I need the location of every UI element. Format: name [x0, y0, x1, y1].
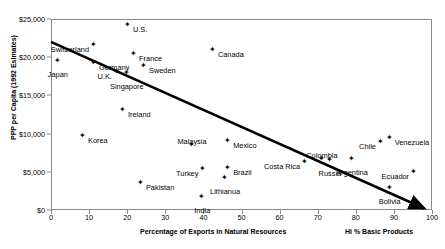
x-tick-label: 70 [314, 213, 322, 222]
data-point [379, 144, 383, 148]
data-point-label: Venezuela [395, 138, 430, 147]
data-point [223, 180, 227, 184]
data-point [303, 164, 307, 168]
y-tick-label: $10,000 [19, 129, 45, 138]
y-tick-mark [47, 171, 51, 172]
data-point [142, 68, 146, 72]
data-point [125, 75, 129, 79]
x-tick-label: 20 [123, 213, 131, 222]
data-point [201, 171, 205, 175]
data-point-label: U.K. [98, 72, 112, 81]
data-point [328, 162, 332, 166]
x-tick-mark [280, 210, 281, 214]
x-tick-mark [318, 210, 319, 214]
data-point [81, 138, 85, 142]
y-tick-label: $20,000 [19, 53, 45, 62]
x-tick-label: 40 [199, 213, 207, 222]
data-point-label: U.S. [133, 24, 147, 33]
data-point [211, 52, 215, 56]
data-point [139, 185, 143, 189]
x-tick-mark [127, 210, 128, 214]
data-point-label: Costa Rica [264, 161, 300, 170]
x-tick-label: 90 [390, 213, 398, 222]
data-point-label: Bolivia [379, 196, 401, 205]
scatter-chart: $0$5,000$10,000$15,000$20,000$25,000 010… [0, 0, 445, 249]
data-point-label: Chile [359, 141, 376, 150]
data-point-label: Singapore [110, 82, 144, 91]
data-point-label: Pakistan [146, 183, 174, 192]
x-tick-mark [356, 210, 357, 214]
data-point [121, 112, 125, 116]
data-point-label: Canada [218, 50, 244, 59]
hi-basic-products-note: Hi % Basic Products [345, 228, 413, 235]
x-axis-label: Percentage of Exports in Natural Resourc… [140, 228, 286, 235]
y-tick-mark [47, 19, 51, 20]
y-tick-label: $15,000 [19, 91, 45, 100]
data-point [190, 147, 194, 151]
x-tick-label: 100 [426, 213, 438, 222]
data-point [126, 27, 130, 31]
data-point [412, 174, 416, 178]
x-tick-mark [165, 210, 166, 214]
data-point-label: Ireland [128, 109, 151, 118]
data-point-label: Sweden [149, 66, 176, 75]
data-point-label: Brazil [233, 167, 251, 176]
x-tick-mark [51, 210, 52, 214]
x-tick-label: 50 [238, 213, 246, 222]
x-tick-label: 10 [85, 213, 93, 222]
plot-area [51, 19, 432, 210]
x-tick-label: 0 [49, 213, 53, 222]
x-tick-label: 60 [276, 213, 284, 222]
data-point-label: Switzerland [51, 44, 89, 53]
data-point-label: Lithianua [210, 186, 240, 195]
data-point-label: India [194, 205, 210, 214]
y-tick-mark [47, 95, 51, 96]
y-tick-label: $25,000 [19, 15, 45, 24]
data-point [132, 56, 136, 60]
y-tick-label: $5,000 [23, 167, 45, 176]
data-point [226, 143, 230, 147]
x-tick-label: 80 [352, 213, 360, 222]
data-point-label: Japan [48, 69, 68, 78]
data-point [92, 65, 96, 69]
data-point [388, 140, 392, 144]
y-tick-mark [47, 133, 51, 134]
y-axis-label: PPP per Capita (1992 Esimates) [10, 33, 17, 143]
data-point [320, 161, 324, 165]
x-tick-mark [394, 210, 395, 214]
x-tick-mark [89, 210, 90, 214]
x-tick-mark [432, 210, 433, 214]
data-point [200, 199, 204, 203]
data-point-label: Turkey [176, 168, 198, 177]
x-tick-label: 30 [161, 213, 169, 222]
data-point [92, 47, 96, 51]
data-point-label: Korea [88, 135, 108, 144]
y-tick-mark [47, 57, 51, 58]
data-point-label: Mexico [233, 141, 256, 150]
data-point-label: Ecuador [382, 171, 410, 180]
data-point [56, 63, 60, 67]
x-tick-mark [242, 210, 243, 214]
data-point [350, 161, 354, 165]
data-point-label: Argentina [336, 167, 368, 176]
data-point [388, 190, 392, 194]
data-point [115, 74, 119, 78]
y-tick-label: $0 [37, 206, 45, 215]
data-point-label: Malaysia [177, 136, 206, 145]
